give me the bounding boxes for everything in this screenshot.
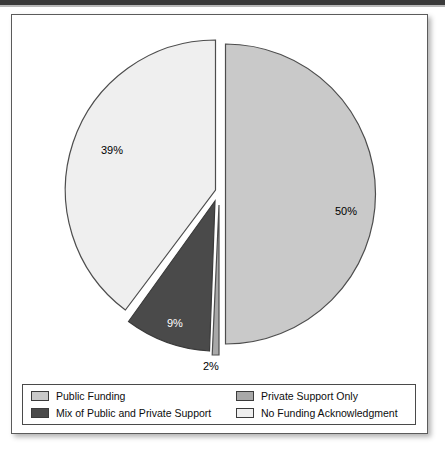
legend-item-no-funding-acknowledgment[interactable]: No Funding Acknowledgment	[236, 405, 415, 422]
legend: Public Funding Private Support Only Mix …	[22, 384, 416, 425]
legend-item-mix-public-private-support[interactable]: Mix of Public and Private Support	[31, 405, 236, 422]
legend-swatch-icon-mix-public-private-support	[31, 408, 49, 418]
pie-slice-public-funding[interactable]	[226, 44, 376, 344]
legend-item-private-support-only[interactable]: Private Support Only	[236, 387, 415, 404]
pie-label-no-funding-acknowledgment: 39%	[101, 144, 123, 156]
legend-label-mix-public-private-support: Mix of Public and Private Support	[56, 408, 211, 419]
scan-top-bar-shadow	[0, 5, 445, 7]
legend-item-public-funding[interactable]: Public Funding	[31, 387, 236, 404]
figure-frame: 50% 39% 9% 2% Public Funding Private Sup…	[11, 14, 428, 434]
legend-grid: Public Funding Private Support Only Mix …	[23, 385, 415, 424]
legend-label-public-funding: Public Funding	[56, 391, 125, 402]
pie-chart-area: 50% 39% 9% 2%	[12, 15, 427, 375]
legend-label-private-support-only: Private Support Only	[261, 391, 358, 402]
pie-chart-svg	[12, 15, 427, 375]
legend-swatch-icon-private-support-only	[236, 391, 254, 401]
pie-label-mix-public-private-support: 9%	[167, 317, 183, 329]
legend-swatch-icon-no-funding-acknowledgment	[236, 408, 254, 418]
legend-swatch-icon-public-funding	[31, 391, 49, 401]
pie-label-private-support-only: 2%	[203, 360, 219, 372]
pie-label-public-funding: 50%	[335, 205, 357, 217]
legend-label-no-funding-acknowledgment: No Funding Acknowledgment	[261, 408, 398, 419]
